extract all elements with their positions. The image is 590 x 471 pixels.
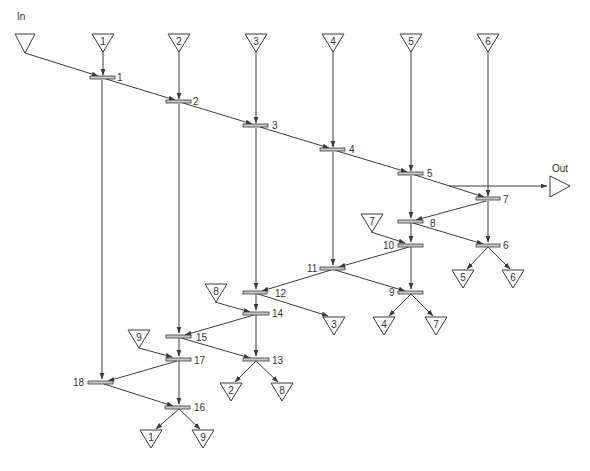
edge-8-to-6 — [413, 223, 483, 244]
output-label: Out — [552, 163, 568, 174]
triangle-input-3-label: 3 — [253, 36, 259, 47]
triangle-input-1-label: 1 — [100, 36, 106, 47]
node-bar-12 — [243, 291, 267, 294]
triangle-side-input-8-label: 8 — [213, 286, 219, 297]
triangle-output-3-label: 3 — [331, 319, 337, 330]
node-bar-16 — [165, 406, 190, 409]
node-label-15: 15 — [196, 332, 208, 343]
edge-4-to-5 — [337, 151, 407, 172]
node-bar-9 — [398, 291, 423, 294]
edge-10-to-11 — [339, 247, 409, 267]
edge-13-to-o2 — [235, 361, 256, 382]
edge-11-to-12 — [262, 270, 331, 291]
edge-17-to-18 — [108, 361, 177, 381]
node-label-12: 12 — [275, 288, 287, 299]
node-bar-10 — [398, 244, 423, 247]
node-label-10: 10 — [383, 240, 395, 251]
node-bar-14 — [243, 312, 269, 315]
input-label: In — [17, 11, 25, 22]
node-bar-15 — [166, 335, 191, 338]
triangle-output-1-label: 1 — [148, 432, 154, 443]
edge-15-to-13 — [181, 338, 250, 358]
edge-3-to-4 — [260, 127, 329, 148]
edge-6-to-o5 — [467, 247, 488, 269]
node-bar-11 — [320, 267, 345, 270]
node-bar-18 — [88, 381, 113, 384]
node-label-9: 9 — [389, 287, 395, 298]
node-bar-3 — [243, 124, 268, 127]
edges — [25, 48, 547, 429]
triangle-output-9-label: 9 — [200, 432, 206, 443]
triangle-input-6-label: 6 — [485, 36, 491, 47]
node-label-16: 16 — [194, 402, 206, 413]
node-bar-8 — [398, 220, 423, 223]
node-bar-2 — [166, 100, 191, 103]
top-inputs: In 1 2 3 4 5 6 — [15, 11, 499, 53]
triangle-output-out — [550, 176, 570, 197]
triangle-output-4-label: 4 — [381, 319, 387, 330]
node-bar-4 — [320, 148, 345, 151]
triangle-output-7-label: 7 — [433, 319, 439, 330]
output-terminal: Out — [550, 163, 570, 197]
triangle-input-4-label: 4 — [330, 36, 336, 47]
node-label-6: 6 — [503, 240, 509, 251]
triangle-output-8-label: 8 — [279, 385, 285, 396]
triangle-output-5-label: 5 — [460, 272, 466, 283]
node-bar-6 — [476, 244, 500, 247]
sorting-network-diagram: In 1 2 3 4 5 6 Out 7 8 9 5 6 3 — [0, 0, 590, 471]
edge-18-to-16 — [104, 384, 173, 406]
node-label-1: 1 — [117, 72, 123, 83]
node-bar-17 — [166, 358, 191, 361]
triangle-input-2-label: 2 — [176, 36, 182, 47]
node-bar-13 — [243, 358, 269, 361]
node-label-17: 17 — [194, 355, 206, 366]
nodes: 1 2 3 4 5 7 8 6 10 11 9 12 14 15 17 13 1 — [73, 72, 509, 413]
triangle-input-5-label: 5 — [408, 36, 414, 47]
node-label-11: 11 — [307, 263, 318, 274]
node-label-2: 2 — [193, 96, 199, 107]
node-bar-7 — [476, 197, 500, 200]
node-label-3: 3 — [272, 120, 278, 131]
triangle-side-input-7-label: 7 — [369, 216, 375, 227]
node-label-8: 8 — [430, 218, 436, 229]
edge-in-to-1 — [25, 53, 98, 76]
node-label-18: 18 — [73, 377, 85, 388]
node-bar-5 — [398, 172, 423, 175]
edge-9-to-o7 — [411, 294, 433, 316]
node-label-14: 14 — [272, 308, 284, 319]
node-label-4: 4 — [349, 144, 355, 155]
edge-s9-to-17 — [139, 348, 172, 357]
edge-s8-to-14 — [215, 302, 250, 312]
edge-7-to-8 — [416, 201, 486, 220]
edge-16-to-o1 — [156, 409, 179, 429]
triangle-output-6-label: 6 — [510, 272, 516, 283]
node-label-7: 7 — [503, 194, 509, 205]
triangle-side-input-9-label: 9 — [136, 332, 142, 343]
triangle-input-in — [15, 34, 35, 53]
node-label-5: 5 — [427, 168, 433, 179]
node-label-13: 13 — [272, 355, 284, 366]
node-bar-1 — [90, 76, 115, 79]
triangle-output-2-label: 2 — [228, 385, 234, 396]
